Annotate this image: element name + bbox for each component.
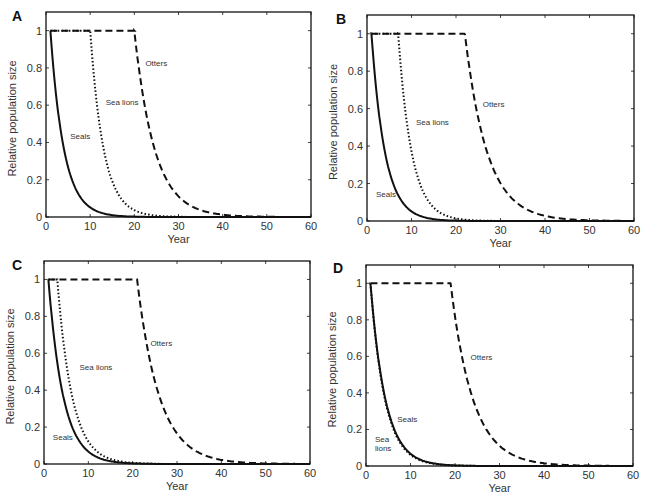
- x-axis-title: Year: [167, 233, 190, 245]
- x-tick-label: 10: [404, 469, 416, 481]
- y-tick-label: 0.8: [27, 62, 42, 74]
- x-tick-label: 20: [127, 467, 139, 479]
- y-tick-label: 0.8: [347, 314, 362, 326]
- series-label: Sea lions: [106, 98, 139, 107]
- plot-frame: [366, 265, 633, 466]
- y-tick-label: 1: [357, 28, 363, 40]
- y-tick-label: 0.6: [27, 99, 42, 111]
- series-label: Sea: [375, 435, 390, 444]
- series-seals: [370, 283, 633, 466]
- x-tick-label: 40: [215, 467, 227, 479]
- x-axis-title: Year: [488, 482, 511, 494]
- series-label: Seals: [376, 190, 396, 199]
- y-tick-label: 0.2: [347, 423, 362, 435]
- x-tick-label: 10: [84, 220, 96, 232]
- series-label: Seals: [53, 433, 73, 442]
- series-label: Otters: [145, 59, 167, 68]
- x-tick-label: 30: [494, 224, 506, 236]
- y-tick-label: 0.4: [27, 136, 42, 148]
- y-tick-label: 0.4: [25, 384, 40, 396]
- x-tick-label: 50: [583, 224, 595, 236]
- y-tick-label: 0.2: [25, 421, 40, 433]
- y-tick-label: 0: [356, 460, 362, 472]
- series-seals: [50, 31, 311, 217]
- y-axis-title: Relative population size: [4, 308, 16, 424]
- y-tick-label: 0.6: [25, 347, 40, 359]
- y-axis-title: Relative population size: [326, 311, 338, 427]
- x-tick-label: 50: [582, 469, 594, 481]
- x-tick-label: 0: [43, 220, 49, 232]
- series-otters: [50, 31, 311, 217]
- series-label: Sea lions: [79, 363, 112, 372]
- x-tick-label: 20: [449, 469, 461, 481]
- y-tick-label: 1: [34, 273, 40, 285]
- series-otters: [370, 283, 633, 466]
- series-label: Otters: [483, 100, 505, 109]
- y-axis-title: Relative population size: [6, 60, 18, 176]
- x-tick-label: 50: [261, 220, 273, 232]
- x-tick-label: 30: [493, 469, 505, 481]
- y-tick-label: 0: [357, 215, 363, 227]
- x-axis-title: Year: [166, 480, 189, 492]
- x-tick-label: 0: [363, 469, 369, 481]
- series-sea-lions: [371, 34, 634, 221]
- x-tick-label: 20: [450, 224, 462, 236]
- x-tick-label: 40: [539, 224, 551, 236]
- y-tick-label: 1: [36, 25, 42, 37]
- panel-d: 010203040506000.20.40.60.81YearRelative …: [326, 265, 639, 494]
- series-otters: [371, 34, 634, 221]
- x-tick-label: 30: [171, 467, 183, 479]
- series-label: lions: [375, 444, 391, 453]
- y-tick-label: 0.2: [27, 174, 42, 186]
- series-label: Seals: [397, 415, 417, 424]
- x-tick-label: 40: [538, 469, 550, 481]
- y-axis-title: Relative population size: [327, 64, 339, 180]
- panel-a: 010203040506000.20.40.60.81YearRelative …: [6, 12, 317, 245]
- x-tick-label: 20: [128, 220, 140, 232]
- series-label: Sea lions: [416, 118, 449, 127]
- y-tick-label: 0.4: [347, 387, 362, 399]
- plot-frame: [46, 12, 311, 217]
- y-tick-label: 0.6: [348, 103, 363, 115]
- x-tick-label: 60: [627, 469, 639, 481]
- panel-c: 010203040506000.20.40.60.81YearRelative …: [4, 261, 316, 492]
- x-tick-label: 50: [260, 467, 272, 479]
- y-tick-label: 0: [36, 211, 42, 223]
- series-sea-lions: [50, 31, 311, 217]
- y-tick-label: 0.8: [348, 65, 363, 77]
- x-tick-label: 60: [305, 220, 317, 232]
- series-label: Otters: [150, 339, 172, 348]
- x-tick-label: 0: [364, 224, 370, 236]
- x-tick-label: 0: [41, 467, 47, 479]
- x-axis-title: Year: [489, 237, 512, 249]
- x-tick-label: 10: [82, 467, 94, 479]
- x-tick-label: 60: [304, 467, 316, 479]
- series-seals: [371, 34, 634, 221]
- x-tick-label: 10: [405, 224, 417, 236]
- x-tick-label: 60: [628, 224, 640, 236]
- series-label: Seals: [70, 132, 90, 141]
- x-tick-label: 30: [172, 220, 184, 232]
- y-tick-label: 1: [356, 277, 362, 289]
- y-tick-label: 0.6: [347, 350, 362, 362]
- chart-canvas: 010203040506000.20.40.60.81YearRelative …: [0, 0, 651, 502]
- series-label: Otters: [471, 353, 493, 362]
- y-tick-label: 0: [34, 458, 40, 470]
- x-tick-label: 40: [217, 220, 229, 232]
- series-sea-lions: [370, 283, 633, 466]
- panel-b: 010203040506000.20.40.60.81YearRelative …: [327, 15, 640, 249]
- y-tick-label: 0.8: [25, 310, 40, 322]
- y-tick-label: 0.4: [348, 140, 363, 152]
- y-tick-label: 0.2: [348, 178, 363, 190]
